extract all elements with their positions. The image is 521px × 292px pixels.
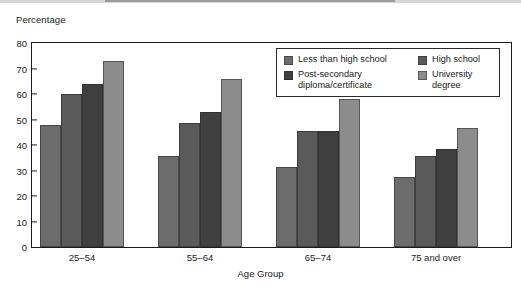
scan-edge-artifact-dark bbox=[105, 0, 395, 2]
legend-swatch-icon bbox=[284, 71, 293, 80]
bar bbox=[221, 79, 242, 247]
y-axis-tick-labels: 01020304050607080 bbox=[0, 43, 27, 247]
y-tick-label: 70 bbox=[16, 63, 27, 74]
bar bbox=[339, 99, 360, 247]
bar bbox=[436, 149, 457, 247]
legend-label: Post-secondary diploma/certificate bbox=[298, 69, 372, 91]
bar bbox=[61, 94, 82, 247]
bar bbox=[82, 84, 103, 247]
bar-group bbox=[40, 43, 124, 247]
bar bbox=[415, 156, 436, 247]
legend-swatch-icon bbox=[418, 71, 427, 80]
legend-label: Less than high school bbox=[298, 54, 387, 65]
y-tick-label: 80 bbox=[16, 38, 27, 49]
bar-chart-figure: Percentage 01020304050607080 25–5455–646… bbox=[0, 0, 521, 292]
y-tick-label: 30 bbox=[16, 165, 27, 176]
x-tick-label: 55–64 bbox=[187, 252, 213, 263]
x-axis-title: Age Group bbox=[0, 268, 521, 279]
bar bbox=[276, 167, 297, 247]
x-tick-label: 75 and over bbox=[411, 252, 461, 263]
bar-group bbox=[158, 43, 242, 247]
y-tick-label: 40 bbox=[16, 140, 27, 151]
legend-entry: Less than high school bbox=[284, 54, 416, 65]
legend-label: High school bbox=[432, 54, 480, 65]
y-tick-label: 10 bbox=[16, 216, 27, 227]
bar bbox=[103, 61, 124, 247]
legend-entry: Post-secondary diploma/certificate bbox=[284, 69, 416, 91]
y-tick-label: 60 bbox=[16, 89, 27, 100]
legend-entry: High school bbox=[418, 54, 493, 65]
legend-swatch-icon bbox=[418, 56, 427, 65]
legend-label: University degree bbox=[432, 69, 493, 91]
bar bbox=[200, 112, 221, 247]
bar bbox=[318, 131, 339, 247]
x-tick-label: 65–74 bbox=[305, 252, 331, 263]
chart-legend: Less than high schoolHigh schoolPost-sec… bbox=[276, 48, 500, 97]
bar bbox=[297, 131, 318, 247]
y-axis-title: Percentage bbox=[16, 14, 66, 25]
y-tick-label: 0 bbox=[22, 242, 27, 253]
legend-entry: University degree bbox=[418, 69, 493, 91]
bar bbox=[158, 156, 179, 247]
y-tick-label: 50 bbox=[16, 114, 27, 125]
legend-swatch-icon bbox=[284, 56, 293, 65]
bar bbox=[179, 123, 200, 247]
x-tick-label: 25–54 bbox=[69, 252, 95, 263]
bar bbox=[394, 177, 415, 247]
y-tick-label: 20 bbox=[16, 191, 27, 202]
bar bbox=[457, 128, 478, 247]
bar bbox=[40, 125, 61, 247]
